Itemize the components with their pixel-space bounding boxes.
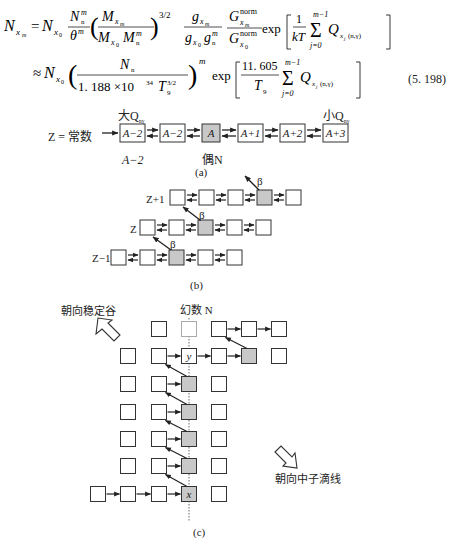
nuclide-box	[182, 432, 197, 447]
nuclide-y-label: y	[186, 350, 192, 362]
nuclide-box	[121, 487, 136, 502]
nuclide-box	[212, 349, 227, 364]
nuclide-box	[121, 432, 136, 447]
nuclide-box	[152, 322, 167, 337]
nuclide-box	[242, 349, 257, 364]
nuclide-box	[242, 322, 257, 337]
toward-neutron-drip-arrow	[275, 446, 297, 468]
nuclide-box	[182, 459, 197, 474]
nuclide-box	[212, 487, 227, 502]
nuclide-box	[212, 459, 227, 474]
nuclide-box	[121, 405, 136, 420]
nuclide-box	[182, 405, 197, 420]
nuclide-box	[212, 432, 227, 447]
nuclide-box	[152, 432, 167, 447]
beta-decay-arrow	[166, 448, 188, 459]
beta-decay-arrow	[166, 421, 188, 432]
nuclide-box	[152, 459, 167, 474]
nuclide-box	[91, 487, 106, 502]
beta-decay-arrow	[166, 365, 188, 377]
nuclide-box	[121, 459, 136, 474]
nuclide-box	[152, 405, 167, 420]
beta-decay-arrow	[166, 393, 188, 405]
nuclide-box	[272, 349, 287, 364]
nuclide-box	[152, 349, 167, 364]
nuclide-box	[212, 322, 227, 337]
nuclide-box	[212, 405, 227, 420]
toward-stable-valley-arrow	[96, 318, 120, 341]
nuclide-box	[152, 487, 167, 502]
fig-c-diagram: yx	[0, 0, 471, 539]
nuclide-box	[272, 322, 287, 337]
nuclide-box	[121, 377, 136, 392]
nuclide-box	[182, 377, 197, 392]
nuclide-box	[152, 377, 167, 392]
nuclide-box	[121, 349, 136, 364]
beta-decay-arrow	[226, 338, 248, 349]
nuclide-box	[212, 377, 227, 392]
nuclide-x-label: x	[186, 488, 192, 500]
nuclide-box	[182, 322, 197, 337]
beta-decay-arrow	[166, 475, 188, 487]
